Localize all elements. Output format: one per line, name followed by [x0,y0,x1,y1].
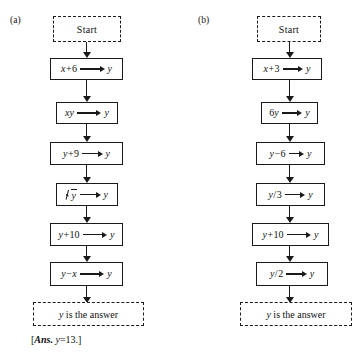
process-node-a-3-expression: y+9 y [63,149,110,159]
process-node-b-3-expression: y−6 y [269,149,311,159]
start-node-a-label: Start [77,24,97,35]
connector-b-5 [285,246,294,262]
connector-line [289,42,291,53]
target-y: y [104,108,108,118]
connector-line [86,124,88,137]
connector-line [86,42,88,53]
target-y: y [107,269,111,279]
assign-arrow-icon [286,270,307,279]
connector-a-3 [82,165,91,183]
start-node-b-label: Start [279,24,299,35]
operator-plus: + [268,64,275,74]
answer-node-b-label: y is the answer [266,309,325,320]
answer-node-a-label: y is the answer [59,309,118,320]
process-node-a-5-expression: y+10 y [58,230,114,240]
connector-line [86,286,88,298]
connector-b-2 [285,124,294,142]
target-y: y [306,64,310,74]
target-y: y [104,190,108,200]
process-node-a-2-expression: xy y [65,108,109,118]
target-y: y [305,108,309,118]
operator-plus: + [267,230,274,240]
ans-value: 13 [66,334,76,345]
answer-text: is the answer [63,309,118,320]
start-node-a: Start [53,16,121,42]
process-node-b-5: y+10 y [252,223,329,246]
process-node-b-2-expression: 6y y [269,108,309,118]
connector-line [289,206,291,218]
connector-a-0 [82,42,91,58]
start-node-b: Start [257,16,321,42]
target-y: y [314,230,318,240]
connector-line [86,246,88,257]
connector-line [86,80,88,97]
operator-minus: − [274,149,281,159]
connector-b-6 [285,286,294,303]
operand-3: 3 [277,190,282,200]
process-node-a-6-expression: y−x y [61,269,112,279]
process-node-a-1: x+6 y [50,58,123,80]
operand-3: 3 [275,64,280,74]
answer-annotation-a: [Ans. y=13.] [31,334,81,345]
assign-arrow-icon [289,149,305,158]
process-node-a-1-expression: x+6 y [61,64,112,74]
assign-arrow-icon [283,65,304,74]
connector-line [289,286,291,298]
assign-arrow-icon [80,190,101,199]
connector-b-0 [285,42,294,58]
operand-2: 2 [278,269,283,279]
connector-line [289,165,291,178]
process-node-b-4: y/3 y [256,183,325,206]
panel-label-a: (a) [10,15,21,25]
square-root-icon: y [66,189,77,201]
process-node-a-3: y+9 y [50,142,123,165]
connector-line [86,165,88,178]
panel-label-b: (b) [198,15,209,25]
connector-b-1 [285,80,294,102]
answer-node-a: y is the answer [33,302,144,326]
assign-arrow-icon [287,230,312,239]
process-node-b-6-expression: y/2 y [270,269,314,279]
operator-plus: + [65,64,72,74]
connector-line [289,246,291,257]
assign-arrow-icon [83,230,108,239]
connector-line [86,206,88,218]
operator-plus: + [63,230,70,240]
assign-arrow-icon [77,109,102,118]
target-y: y [108,64,112,74]
assign-arrow-icon [80,270,105,279]
operand-y: y [274,108,278,118]
operand-6: 6 [281,149,286,159]
connector-a-5 [82,246,91,262]
operand-9: 9 [74,149,79,159]
connector-a-2 [82,124,91,142]
process-node-a-4: y y [56,183,118,206]
process-node-b-1-expression: x+3 y [263,64,310,74]
process-node-a-6: y−x y [50,262,123,286]
connector-b-4 [285,206,294,223]
connector-line [289,80,291,97]
operand-6: 6 [72,64,77,74]
target-y: y [307,149,311,159]
operand-10: 10 [70,230,80,240]
connector-a-6 [82,286,91,303]
assign-arrow-icon [82,149,103,158]
operand-xy: xy [65,108,74,118]
process-node-b-5-expression: y+10 y [262,230,318,240]
process-node-b-4-expression: y/3 y [268,190,312,200]
process-node-a-4-expression: y y [66,189,108,201]
bracket-close: .] [76,334,82,345]
flowchart-figure: (a) Start x+6 y xy y y+9 y [0,0,364,360]
operand-x: x [72,269,76,279]
process-node-a-2: xy y [56,102,118,124]
target-y: y [106,149,110,159]
connector-b-3 [285,165,294,183]
ans-keyword: Ans. [34,334,53,345]
process-node-b-3: y−6 y [256,142,325,165]
connector-a-1 [82,80,91,102]
assign-arrow-icon [282,109,303,118]
process-node-b-2: 6y y [261,102,318,124]
target-y: y [110,230,114,240]
operator-plus: + [67,149,74,159]
operand-10: 10 [274,230,284,240]
